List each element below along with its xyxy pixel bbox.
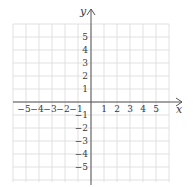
y-tick-label: 4 (82, 45, 88, 55)
y-tick-label: −2 (75, 123, 88, 133)
y-tick-label: 5 (82, 32, 88, 42)
x-tick-label: 5 (153, 104, 159, 114)
coordinate-plane: x y −5−4−3−2−112345 54321−1−2−3−4−5 (0, 0, 193, 187)
y-tick-label: 1 (82, 84, 88, 94)
x-tick-label: −5 (17, 104, 31, 114)
x-tick-label: 1 (101, 104, 107, 114)
y-axis-label: y (79, 5, 87, 18)
x-tick-label: −2 (56, 104, 69, 114)
x-tick-label: −4 (30, 104, 44, 114)
y-tick-label: −4 (75, 149, 89, 159)
x-tick-label: 3 (127, 104, 133, 114)
x-tick-label: −3 (43, 104, 57, 114)
axes (13, 9, 182, 185)
y-tick-label: −5 (75, 162, 89, 172)
y-tick-label: 2 (82, 71, 88, 81)
x-tick-labels: −5−4−3−2−112345 (17, 104, 159, 114)
x-tick-label: 2 (114, 104, 120, 114)
y-tick-label: −3 (75, 136, 89, 146)
y-tick-label: −1 (75, 110, 88, 120)
y-tick-label: 3 (82, 58, 88, 68)
x-axis-label: x (176, 103, 183, 116)
x-tick-label: 4 (140, 104, 146, 114)
